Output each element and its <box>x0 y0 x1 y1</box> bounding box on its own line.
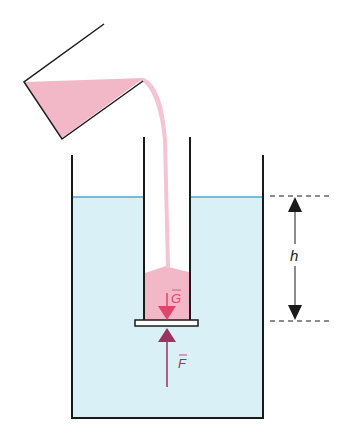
bottom-plate <box>135 320 198 326</box>
label-F: F <box>178 356 187 371</box>
diagram-canvas: G F h <box>0 0 358 443</box>
label-G: G <box>171 291 181 306</box>
label-h: h <box>290 247 298 264</box>
